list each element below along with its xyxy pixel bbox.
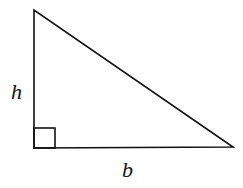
triangle-shape: [34, 10, 233, 148]
height-label: h: [11, 79, 22, 104]
base-label: b: [122, 157, 133, 182]
right-angle-marker: [34, 128, 55, 148]
right-triangle-diagram: h b: [0, 0, 243, 188]
